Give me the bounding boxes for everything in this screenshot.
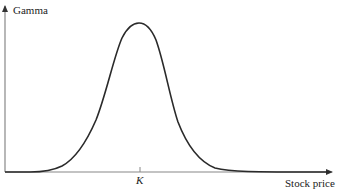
strike-label: K [135,174,144,186]
gamma-chart: Gamma K Stock price [0,0,340,190]
y-axis-label: Gamma [13,4,48,16]
x-axis-label: Stock price [285,177,335,189]
gamma-curve [5,23,330,172]
